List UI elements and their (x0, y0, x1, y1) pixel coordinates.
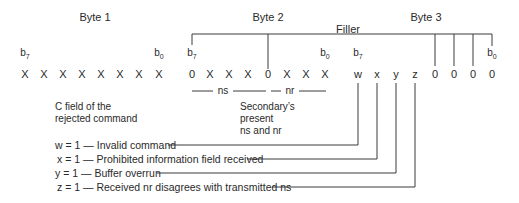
byte2-bit: 0 (265, 69, 271, 80)
byte3-bit-x: x (374, 69, 380, 80)
byte2-bit: X (283, 69, 290, 80)
byte3-bit: 0 (432, 69, 438, 80)
byte3-msb-label: b7 (353, 48, 362, 60)
byte2-msb-label: b7 (187, 48, 196, 60)
ns-label: ns (218, 86, 229, 96)
byte3-bit-z: z (412, 69, 418, 80)
byte3-bit: 0 (470, 69, 476, 80)
filler-label: Filler (336, 24, 360, 35)
byte2-title: Byte 2 (252, 12, 283, 23)
byte1-bit: X (59, 69, 66, 80)
legend-w: w = 1 — Invalid command (55, 140, 176, 151)
byte1-title: Byte 1 (79, 12, 110, 23)
byte1-msb-label: b7 (20, 48, 29, 60)
byte1-bit: X (21, 69, 28, 80)
byte1-bit: X (40, 69, 47, 80)
byte1-bit: X (135, 69, 142, 80)
byte2-bit: X (244, 69, 251, 80)
byte3-lsb-label: b0 (487, 48, 496, 60)
byte1-note: C field of the rejected command (55, 101, 137, 125)
byte1-lsb-label: b0 (154, 48, 163, 60)
byte3-bit-y: y (393, 69, 399, 80)
byte2-bit: X (225, 69, 232, 80)
byte3-bit: 0 (489, 69, 495, 80)
byte3-title: Byte 3 (410, 12, 441, 23)
byte2-bit: X (206, 69, 213, 80)
nr-label: nr (286, 86, 295, 96)
byte3-bit-w: w (354, 69, 362, 80)
byte2-note: Secondary’s present ns and nr (240, 101, 295, 137)
byte2-lsb-label: b0 (320, 48, 329, 60)
legend-x: x = 1 — Prohibited information field rec… (57, 154, 263, 165)
byte1-bit: X (116, 69, 123, 80)
byte1-bit: X (155, 69, 162, 80)
legend-z: z = 1 — Received nr disagrees with trans… (57, 182, 291, 193)
byte2-bit: X (321, 69, 328, 80)
legend-y: y = 1 — Buffer overrun (55, 168, 161, 179)
byte2-bit: 0 (189, 69, 195, 80)
byte2-bit: X (302, 69, 309, 80)
byte1-bit: X (97, 69, 104, 80)
byte1-bit: X (78, 69, 85, 80)
byte3-bit: 0 (451, 69, 457, 80)
